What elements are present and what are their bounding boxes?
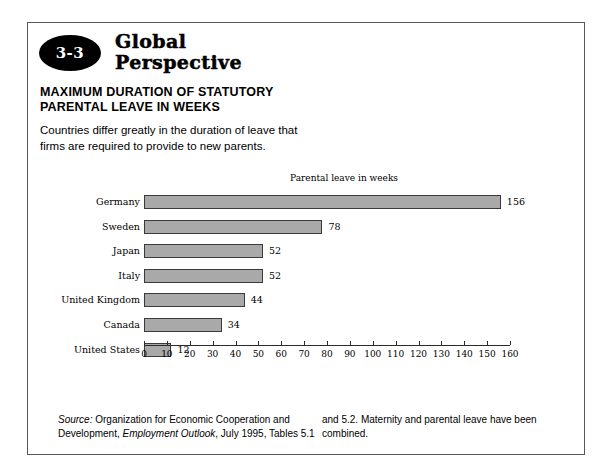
bar-category-label: United States [28, 339, 140, 361]
source-column-left: Source: Organization for Economic Cooper… [58, 413, 308, 441]
axis-tick [510, 341, 511, 345]
bar-row: Canada34 [28, 314, 584, 336]
bar-chart: Parental leave in weeks Germany156Sweden… [28, 173, 584, 408]
axis-tick [350, 341, 351, 345]
source-publication: Employment Outlook [122, 428, 215, 439]
axis-tick [304, 341, 305, 345]
axis-tick-label: 70 [298, 349, 309, 359]
axis-tick-label: 160 [501, 349, 518, 359]
bar-value-label: 156 [507, 191, 525, 213]
box-kicker-line-2: Perspective [115, 52, 242, 73]
lede-line-2: firms are required to provide to new par… [40, 139, 440, 155]
axis-tick-label: 100 [364, 349, 381, 359]
axis-tick-label: 10 [161, 349, 172, 359]
box-lede: Countries differ greatly in the duration… [40, 123, 440, 154]
axis-tick [373, 341, 374, 345]
bar [144, 195, 501, 209]
axis-tick-label: 110 [387, 349, 404, 359]
bar-category-label: Japan [28, 240, 140, 262]
source-line-1-rest: Organization for Economic Cooperation an… [92, 414, 289, 425]
axis-tick [327, 341, 328, 345]
bar-category-label: United Kingdom [28, 289, 140, 311]
axis-tick [464, 341, 465, 345]
bar-category-label: Canada [28, 314, 140, 336]
axis-tick [281, 341, 282, 345]
axis-tick [258, 341, 259, 345]
bar-row: Sweden78 [28, 216, 584, 238]
bar-category-label: Sweden [28, 216, 140, 238]
axis-tick-label: 120 [410, 349, 427, 359]
source-label: Source: [58, 414, 92, 425]
axis-tick-label: 50 [253, 349, 264, 359]
source-line-1: Source: Organization for Economic Cooper… [58, 413, 308, 427]
bar-value-label: 78 [328, 216, 340, 238]
bar-value-label: 52 [269, 240, 281, 262]
headline-line-2: PARENTAL LEAVE IN WEEKS [40, 100, 460, 115]
bar-value-label: 52 [269, 265, 281, 287]
axis-tick-label: 130 [433, 349, 450, 359]
bar-category-label: Italy [28, 265, 140, 287]
axis-tick-label: 80 [321, 349, 332, 359]
box-header: 3-3 Global Perspective [39, 31, 389, 89]
axis-tick-label: 140 [456, 349, 473, 359]
axis-tick-label: 20 [184, 349, 195, 359]
bar-row: United Kingdom44 [28, 289, 584, 311]
box-number-badge: 3-3 [39, 35, 101, 71]
bar [144, 269, 263, 283]
chart-x-axis: 0102030405060708090100110120130140150160 [144, 345, 510, 375]
axis-tick [190, 341, 191, 345]
axis-tick [213, 341, 214, 345]
bar-value-label: 34 [228, 314, 240, 336]
box-kicker-line-1: Global [115, 31, 242, 52]
bar [144, 244, 263, 258]
box-frame: 3-3 Global Perspective MAXIMUM DURATION … [27, 22, 585, 455]
bar [144, 220, 322, 234]
axis-line [144, 345, 510, 346]
box-kicker: Global Perspective [115, 31, 242, 73]
source-note: Source: Organization for Economic Cooper… [58, 413, 558, 441]
axis-tick [236, 341, 237, 345]
axis-tick [441, 341, 442, 345]
bar-row: Germany156 [28, 191, 584, 213]
axis-tick-label: 30 [207, 349, 218, 359]
axis-tick [487, 341, 488, 345]
bar-value-label: 44 [251, 289, 263, 311]
axis-tick [419, 341, 420, 345]
source-line-4: combined. [322, 427, 558, 441]
axis-tick-label: 0 [141, 349, 147, 359]
headline-line-1: MAXIMUM DURATION OF STATUTORY [40, 85, 460, 100]
chart-title: Parental leave in weeks [290, 173, 398, 183]
lede-line-1: Countries differ greatly in the duration… [40, 123, 440, 139]
axis-tick-label: 90 [344, 349, 355, 359]
source-line-3: and 5.2. Maternity and parental leave ha… [322, 413, 558, 427]
bar-row: Japan52 [28, 240, 584, 262]
source-line-2-a: Development, [58, 428, 122, 439]
source-line-2: Development, Employment Outlook, July 19… [58, 427, 308, 441]
axis-tick-label: 60 [276, 349, 287, 359]
box-headline: MAXIMUM DURATION OF STATUTORY PARENTAL L… [40, 85, 460, 115]
axis-tick [396, 341, 397, 345]
source-column-right: and 5.2. Maternity and parental leave ha… [322, 413, 558, 441]
bar-category-label: Germany [28, 191, 140, 213]
source-line-2-b: , July 1995, Tables 5.1 [215, 428, 314, 439]
axis-tick-label: 40 [230, 349, 241, 359]
axis-tick [167, 341, 168, 345]
bar [144, 293, 245, 307]
bar-row: Italy52 [28, 265, 584, 287]
axis-tick-label: 150 [479, 349, 496, 359]
bar [144, 318, 222, 332]
axis-tick [144, 341, 145, 345]
